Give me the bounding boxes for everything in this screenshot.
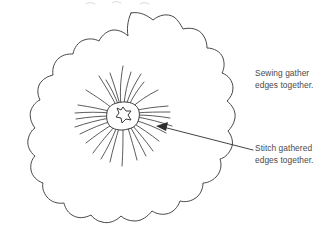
annotation-sewing-line-2: edges together. [255, 80, 314, 92]
annotation-stitch-line-2: edges together. [255, 155, 314, 167]
sewing-diagram: Sewing gather edges together. Stitch gat… [0, 0, 330, 244]
diagram-canvas [0, 0, 330, 244]
annotation-sewing-line-1: Sewing gather [255, 68, 314, 80]
annotation-stitch-line-1: Stitch gathered [255, 143, 314, 155]
annotation-stitch-gathered: Stitch gathered edges together. [255, 143, 314, 166]
gathered-center-hub [107, 102, 140, 130]
leader-arrow [156, 122, 253, 150]
annotation-sewing-gather: Sewing gather edges together. [255, 68, 314, 91]
faint-top-marks [86, 2, 149, 5]
